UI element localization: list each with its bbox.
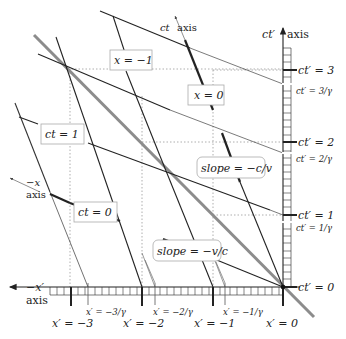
x-prime-ladder-rungs xyxy=(57,287,279,295)
svg-text:ct′ = 3/γ: ct′ = 3/γ xyxy=(296,86,333,96)
ct-prime-major-ticks xyxy=(283,70,297,287)
x-prime-tick-labels: x′ = −3 x′ = −2 x′ = −1 x′ = 0 xyxy=(52,317,298,330)
svg-text:x′ = −3: x′ = −3 xyxy=(52,317,93,330)
origin-point xyxy=(281,285,286,290)
svg-text:ct′ = 1: ct′ = 1 xyxy=(298,209,334,222)
label-slope-v-c: slope = −v/c xyxy=(153,240,228,261)
label-x-neg1: x = −1 xyxy=(110,50,153,70)
svg-text:ct′: ct′ xyxy=(262,28,276,41)
svg-text:ct′ = 1/γ: ct′ = 1/γ xyxy=(296,223,333,233)
svg-text:x = 0: x = 0 xyxy=(194,89,223,102)
svg-text:−x: −x xyxy=(26,177,40,188)
svg-text:x′ = −3/γ: x′ = −3/γ xyxy=(86,307,127,317)
ct-prime-axis-ladder xyxy=(283,28,291,300)
label-ct-1: ct = 1 xyxy=(41,124,84,144)
svg-text:ct′ = 2/γ: ct′ = 2/γ xyxy=(296,154,333,164)
svg-text:ct = 0: ct = 0 xyxy=(78,206,112,219)
svg-text:x′ = −2: x′ = −2 xyxy=(123,317,164,330)
neg-x-axis-label: −x axis xyxy=(26,177,46,200)
svg-text:ct′ = 0: ct′ = 0 xyxy=(298,281,334,294)
spacetime-diagram: ct′ axis ct axis −x axis −x′ axis ct′ = … xyxy=(0,0,346,339)
x-prime-gamma-ticks xyxy=(88,283,225,305)
svg-text:ct: ct xyxy=(160,22,171,33)
svg-text:axis: axis xyxy=(287,28,309,41)
svg-text:axis: axis xyxy=(26,189,46,200)
neg-x-prime-axis-label: −x′ axis xyxy=(26,281,48,307)
svg-text:ct = 1: ct = 1 xyxy=(45,128,79,141)
x-axis-line xyxy=(10,178,283,287)
label-x-0: x = 0 xyxy=(188,85,224,105)
svg-text:x′ = −1/γ: x′ = −1/γ xyxy=(223,307,264,317)
svg-text:ct′ = 3: ct′ = 3 xyxy=(298,64,334,77)
svg-text:x′ = 0: x′ = 0 xyxy=(266,317,298,330)
svg-text:−x′: −x′ xyxy=(26,281,44,294)
svg-text:slope = −c/v: slope = −c/v xyxy=(201,162,273,175)
ct-prime-tick-labels: ct′ = 3 ct′ = 2 ct′ = 1 ct′ = 0 xyxy=(298,64,334,294)
light-line xyxy=(34,35,314,317)
svg-text:ct′ = 2: ct′ = 2 xyxy=(298,136,334,149)
svg-text:axis: axis xyxy=(177,22,197,33)
label-slope-c-v: slope = −c/v xyxy=(197,157,273,178)
x-prime-gamma-labels: x′ = −3/γ x′ = −2/γ x′ = −1/γ xyxy=(86,307,264,317)
svg-text:slope = −v/c: slope = −v/c xyxy=(157,245,228,258)
ct-prime-ladder-rungs xyxy=(283,55,291,279)
ct-axis-label: ct axis xyxy=(160,22,197,33)
svg-text:x′ = −2/γ: x′ = −2/γ xyxy=(153,307,194,317)
x-neg2-worldline xyxy=(56,37,142,287)
label-ct-0: ct = 0 xyxy=(74,202,117,222)
svg-text:axis: axis xyxy=(26,294,48,307)
svg-text:x = −1: x = −1 xyxy=(114,54,153,67)
svg-text:x′ = −1: x′ = −1 xyxy=(194,317,235,330)
ct-prime-axis-label: ct′ axis xyxy=(262,28,309,41)
